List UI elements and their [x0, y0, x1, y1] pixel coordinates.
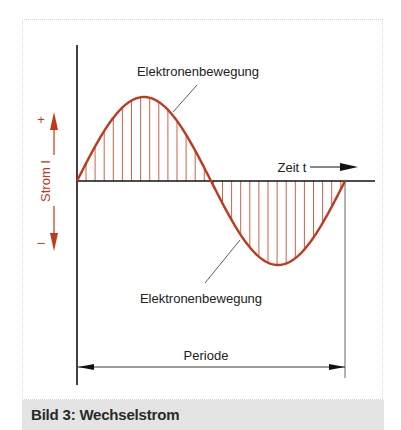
figure-caption: Bild 3: Wechselstrom [31, 406, 179, 423]
period-label: Periode [184, 348, 229, 363]
current-up-arrow-icon [50, 112, 58, 130]
sine-diagram: Periode Zeit t Elektronenbewegung Elektr… [0, 0, 401, 430]
time-arrow-icon [340, 163, 358, 171]
period-arrow-right-icon [329, 364, 345, 370]
upper-curve-label: Elektronenbewegung [137, 64, 259, 79]
plus-sign: + [37, 112, 45, 127]
y-axis-label: Strom I [38, 160, 53, 202]
minus-sign: – [37, 235, 45, 250]
current-down-arrow-icon [50, 233, 58, 251]
lower-leader-line [205, 240, 240, 283]
x-axis-label: Zeit t [278, 160, 307, 175]
lower-curve-label: Elektronenbewegung [140, 291, 262, 306]
caption-bar: Bild 3: Wechselstrom [22, 400, 384, 430]
period-arrow-left-icon [78, 364, 94, 370]
upper-leader-line [173, 85, 197, 112]
